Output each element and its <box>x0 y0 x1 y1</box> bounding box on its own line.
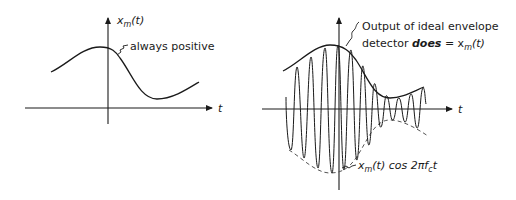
always-positive-label: always positive <box>130 40 215 53</box>
left-y-axis-label: xm(t) <box>116 14 144 29</box>
carrier-annotation-leader <box>342 165 356 168</box>
left-x-axis-label: t <box>218 102 223 115</box>
annotation-leader-squiggle <box>117 45 128 55</box>
right-panel: t Output of ideal envelope detector does… <box>262 18 499 190</box>
envelope-annotation-line1: Output of ideal envelope <box>362 20 499 33</box>
carrier-annotation-label: xm(t) cos 2πfct <box>357 159 438 174</box>
left-panel: xm(t) t always positive <box>25 14 223 124</box>
envelope-annotation-line2: detector does = xm(t) <box>362 37 485 52</box>
envelope-detection-figure: xm(t) t always positive t Output of idea… <box>0 0 516 200</box>
envelope-annotation-leader <box>346 22 359 46</box>
right-x-axis-label: t <box>458 103 463 116</box>
message-signal-curve <box>51 47 199 99</box>
